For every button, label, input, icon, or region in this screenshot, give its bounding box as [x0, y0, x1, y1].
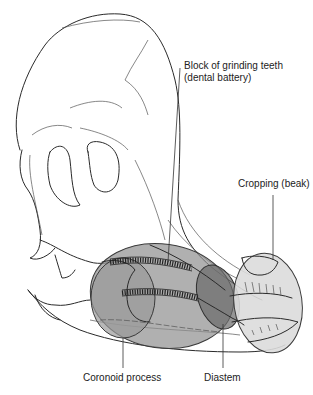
skull-diagram: Block of grinding teeth (dental battery)…: [0, 0, 313, 395]
beak-region: [227, 249, 308, 357]
orbit: [87, 142, 119, 192]
fenestra: [48, 146, 80, 206]
label-coronoid-process: Coronoid process: [83, 372, 161, 384]
label-dental-battery: Block of grinding teeth (dental battery): [184, 60, 283, 84]
label-dental-battery-line1: Block of grinding teeth: [184, 60, 283, 72]
label-diastem: Diastem: [204, 372, 241, 384]
coronoid-region: [91, 258, 155, 338]
label-dental-battery-line2: (dental battery): [184, 72, 283, 84]
label-cropping: Cropping (beak): [238, 178, 310, 190]
